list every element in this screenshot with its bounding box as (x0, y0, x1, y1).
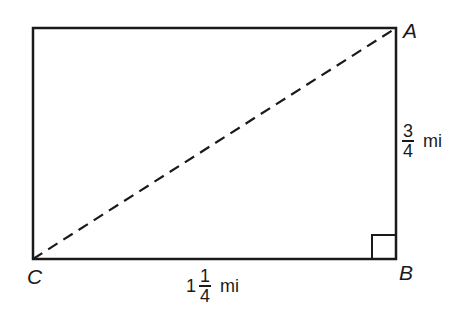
diagonal-ca-dashed (33, 28, 396, 259)
fraction-numerator: 3 (402, 122, 414, 140)
unit-label: mi (423, 132, 442, 150)
diagram-canvas: A B C 3 4 mi 1 1 4 mi (0, 0, 464, 328)
measurement-horizontal-side: 1 1 4 mi (186, 267, 239, 305)
fraction-denominator: 4 (199, 287, 211, 305)
fraction-numerator: 1 (199, 267, 211, 285)
vertex-label-b: B (399, 262, 413, 283)
mixed-number-whole: 1 (186, 277, 196, 295)
vertex-label-a: A (403, 20, 417, 41)
fraction-one-quarter: 1 4 (199, 267, 211, 305)
fraction-denominator: 4 (402, 142, 414, 160)
unit-label: mi (220, 277, 239, 295)
fraction-three-quarters: 3 4 (402, 122, 414, 160)
measurement-vertical-side: 3 4 mi (400, 122, 442, 160)
vertex-label-c: C (27, 266, 42, 287)
right-angle-marker (372, 235, 396, 259)
